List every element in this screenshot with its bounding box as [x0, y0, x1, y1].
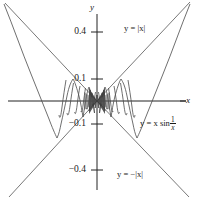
figure-container: 0.4 0.1 −0.1 −0.4 y x y = |x| y = x sin1… — [0, 0, 198, 199]
one-over-x-fraction: 1x — [170, 116, 176, 133]
x-axis-label: x — [186, 96, 190, 105]
equation-label-abs-x: y = |x| — [124, 24, 145, 33]
y-tick-label-0.1: 0.1 — [56, 74, 86, 84]
y-tick-label-neg-0.1: −0.1 — [52, 119, 86, 129]
fraction-denominator: x — [170, 123, 176, 132]
y-axis-label: y — [90, 3, 94, 12]
equation-label-neg-abs-x: y = −|x| — [117, 170, 143, 179]
equation-label-x-sin-one-over-x: y = x sin1x — [140, 116, 176, 133]
y-tick-label-0.4: 0.4 — [56, 27, 86, 37]
y-tick-label-neg-0.4: −0.4 — [52, 165, 86, 175]
xsin-prefix: y = x sin — [140, 118, 170, 128]
fraction-numerator: 1 — [170, 116, 176, 124]
plot-canvas — [0, 0, 198, 199]
